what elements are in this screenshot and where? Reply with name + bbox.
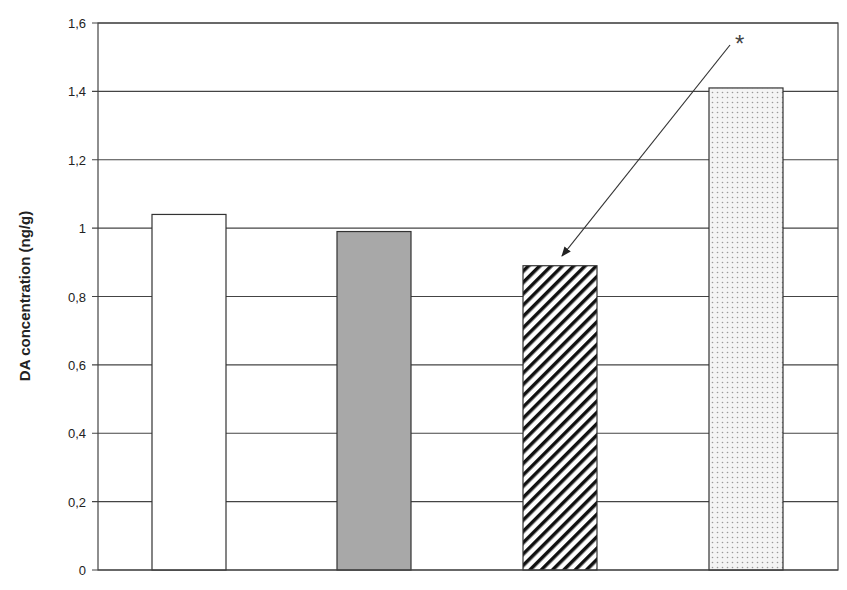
y-tick-label: 0,8 (68, 290, 86, 305)
y-axis-label: DA concentration (ng/g) (16, 211, 33, 381)
bar-4 (709, 88, 783, 570)
y-tick-label: 0,2 (68, 495, 86, 510)
bar-chart: 00,20,40,60,811,21,41,6 * DA concentrati… (0, 0, 847, 590)
y-axis-ticks: 00,20,40,60,811,21,41,6 (68, 16, 86, 578)
y-tick-label: 1 (79, 221, 86, 236)
y-tick-label: 0 (79, 563, 86, 578)
significance-asterisk: * (735, 30, 744, 57)
y-tick-label: 0,4 (68, 426, 86, 441)
y-tick-label: 0,6 (68, 358, 86, 373)
y-tick-label: 1,2 (68, 153, 86, 168)
bar-2 (337, 232, 411, 570)
y-tick-label: 1,6 (68, 16, 86, 31)
bar-3 (523, 266, 597, 570)
y-tick-label: 1,4 (68, 84, 86, 99)
bar-1 (152, 214, 226, 570)
annotation-arrow (562, 45, 730, 256)
